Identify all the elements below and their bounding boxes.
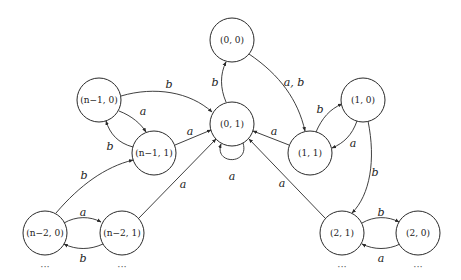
state-diagram: b a, b a b a b a b a a b a [0, 0, 461, 280]
state-node-n-2-1: (n−2, 1) [100, 211, 144, 255]
state-node-1-0: (1, 0) [341, 78, 385, 122]
state-node-0-1: (0, 1) [210, 102, 254, 146]
edge-label: b [211, 76, 218, 89]
continuation-marks: ··· ··· ··· ··· [40, 261, 423, 272]
edge-label: b [371, 166, 378, 179]
svg-text:(2, 0): (2, 0) [406, 228, 430, 238]
edge-20-21 [362, 244, 400, 249]
edge-label: b [80, 169, 87, 182]
state-node-0-0: (0, 0) [210, 18, 254, 62]
edge-label: a [279, 177, 286, 190]
svg-text:(n−1, 0): (n−1, 0) [80, 95, 118, 105]
ellipsis-mark: ··· [413, 261, 423, 272]
edge-label: a [80, 206, 87, 219]
edge-label: a [271, 125, 278, 138]
state-node-1-1: (1, 1) [288, 131, 332, 175]
svg-text:(n−1, 1): (n−1, 1) [135, 148, 173, 158]
state-node-n-1-0: (n−1, 0) [77, 78, 121, 122]
edge-m20-m11 [56, 160, 133, 213]
svg-text:(0, 1): (0, 1) [220, 119, 244, 129]
edge-label: a [350, 137, 357, 150]
state-node-2-1: (2, 1) [320, 211, 364, 255]
svg-text:(1, 1): (1, 1) [298, 148, 322, 158]
state-node-n-1-1: (n−1, 1) [132, 131, 176, 175]
edge-label: a [229, 170, 236, 183]
ellipsis-mark: ··· [117, 261, 127, 272]
svg-text:(2, 1): (2, 1) [330, 228, 354, 238]
edge-label: a [378, 252, 385, 265]
edge-label: a [180, 178, 187, 191]
svg-text:(n−2, 1): (n−2, 1) [103, 228, 141, 238]
edge-label: a, b [284, 76, 305, 89]
state-node-2-0: (2, 0) [396, 211, 440, 255]
edge-label: b [316, 103, 323, 116]
edge-01-00 [222, 62, 227, 102]
edge-label: a [187, 125, 194, 138]
edge-m10-01 [121, 91, 212, 112]
edge-10-21 [352, 121, 371, 213]
edge-label: b [165, 78, 172, 91]
ellipsis-mark: ··· [40, 261, 50, 272]
edge-m21-m20 [64, 244, 103, 249]
state-node-n-2-0: (n−2, 0) [23, 211, 67, 255]
edge-00-11 [249, 54, 305, 131]
ellipsis-mark: ··· [337, 261, 347, 272]
edge-label: b [377, 206, 384, 219]
edge-label: a [140, 105, 147, 118]
svg-text:(1, 0): (1, 0) [351, 95, 375, 105]
nodes: (0, 0) (0, 1) (n−1, 0) (n−1, 1) (1, 0) (… [23, 18, 440, 255]
svg-text:(n−2, 0): (n−2, 0) [26, 228, 64, 238]
edge-label: b [106, 140, 113, 153]
edge-label: b [79, 252, 86, 265]
svg-text:(0, 0): (0, 0) [220, 35, 244, 45]
